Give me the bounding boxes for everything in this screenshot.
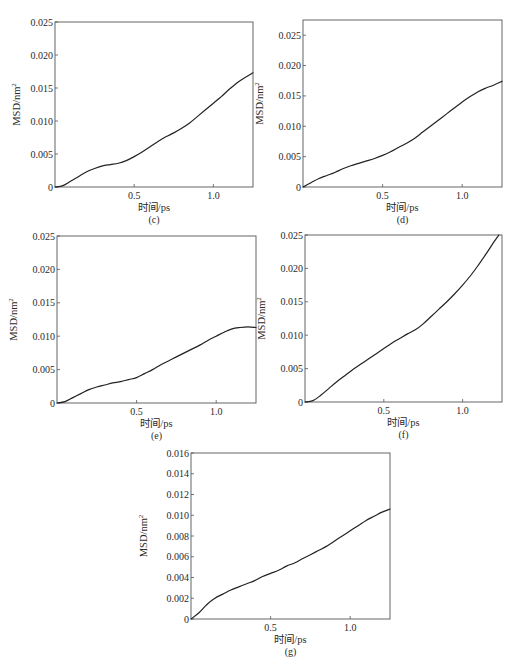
y-axis-label-text: MSD/nm [138,518,149,557]
x-tick-label: 1.0 [456,190,469,201]
plot-frame [55,22,253,187]
plot-frame [191,453,390,619]
y-axis-label: MSD/nm2 [10,83,22,126]
y-tick-label: 0 [48,182,53,193]
y-axis-label: MSD/nm2 [255,297,267,340]
y-tick-label: 0.025 [279,30,302,41]
y-tick-label: 0.005 [279,151,302,162]
x-axis-label: 时间/ps [138,201,170,213]
series-line-e [57,327,256,403]
panel-label: (g) [285,646,297,658]
y-tick-label: 0.010 [33,331,56,342]
y-tick-label: 0 [296,182,301,193]
y-tick-label: 0.005 [281,363,304,374]
y-tick-label: 0 [298,397,303,408]
y-tick-label: 0.020 [31,50,54,61]
y-tick-label: 0.010 [281,330,304,341]
y-tick-label: 0.002 [167,593,190,604]
y-tick-label: 0.008 [167,531,190,542]
y-tick-label: 0 [184,614,189,625]
y-tick-label: 0.015 [33,297,56,308]
plot-frame [57,236,256,403]
x-tick-label: 0.5 [376,190,389,201]
y-tick-label: 0.025 [281,230,304,241]
x-tick-label: 1.0 [207,190,220,201]
y-tick-label: 0.010 [167,510,190,521]
chart-panel-g: 00.0020.0040.0060.0080.0100.0120.0140.01… [137,448,390,659]
y-tick-label: 0.012 [167,489,190,500]
chart-panel-c: 00.0050.0100.0150.0200.0250.51.0时间/ps(c)… [10,17,253,227]
y-axis-label-text: MSD/nm [254,86,265,125]
y-axis-label: MSD/nm2 [137,514,149,557]
plot-frame [303,20,502,187]
y-axis-label-superscript: 2 [137,514,145,518]
series-line-f [305,235,499,402]
x-tick-label: 1.0 [210,406,223,417]
panel-label: (e) [151,430,162,442]
x-axis-label: 时间/ps [387,416,419,428]
x-axis-label: 时间/ps [274,633,306,645]
y-axis-label-superscript: 2 [253,82,261,86]
y-axis-label-superscript: 2 [10,83,18,87]
y-tick-label: 0.020 [33,264,56,275]
chart-panel-e: 00.0050.0100.0150.0200.0250.51.0时间/ps(e)… [7,231,256,443]
y-tick-label: 0 [50,398,55,409]
x-tick-label: 0.5 [128,190,141,201]
y-tick-label: 0.015 [281,296,304,307]
y-axis-label: MSD/nm2 [7,298,19,341]
x-tick-label: 0.5 [264,622,277,633]
panel-label: (c) [148,214,159,226]
msd-figure: 00.0050.0100.0150.0200.0250.51.0时间/ps(c)… [0,0,519,670]
x-tick-label: 1.0 [456,405,469,416]
x-tick-label: 0.5 [130,406,143,417]
y-axis-label: MSD/nm2 [253,82,265,125]
y-axis-label-text: MSD/nm [256,301,267,340]
x-axis-label: 时间/ps [140,417,172,429]
x-axis-label: 时间/ps [386,201,418,213]
panel-label: (f) [399,429,409,441]
y-tick-label: 0.020 [279,60,302,71]
y-tick-label: 0.005 [33,364,56,375]
y-tick-label: 0.006 [167,551,190,562]
y-tick-label: 0.004 [167,572,190,583]
y-tick-label: 0.005 [31,149,54,160]
panel-label: (d) [397,214,409,226]
y-tick-label: 0.010 [279,121,302,132]
y-axis-label-superscript: 2 [7,298,15,302]
y-tick-label: 0.015 [279,90,302,101]
y-tick-label: 0.020 [281,263,304,274]
x-tick-label: 1.0 [344,622,357,633]
y-axis-label-text: MSD/nm [11,87,22,126]
y-tick-label: 0.010 [31,116,54,127]
x-tick-label: 0.5 [378,405,391,416]
y-tick-label: 0.025 [33,231,56,242]
series-line-g [191,509,390,619]
y-tick-label: 0.025 [31,17,54,28]
y-tick-label: 0.014 [167,468,190,479]
y-tick-label: 0.015 [31,83,54,94]
series-line-c [55,73,253,187]
y-axis-label-text: MSD/nm [8,302,19,341]
plot-frame [305,235,502,402]
y-axis-label-superscript: 2 [255,297,263,301]
y-tick-label: 0.016 [167,448,190,459]
chart-panel-d: 00.0050.0100.0150.0200.0250.51.0时间/ps(d)… [253,20,502,226]
chart-panel-f: 00.0050.0100.0150.0200.0250.51.0时间/ps(f)… [255,230,502,442]
series-line-d [303,81,502,187]
